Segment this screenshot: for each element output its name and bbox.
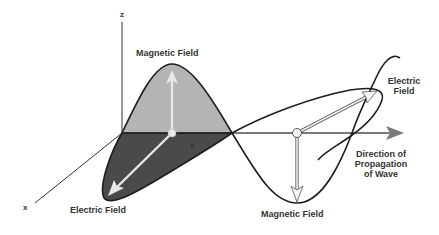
propagation-direction-label: Direction of Propagation of Wave <box>351 149 411 179</box>
magnetic-field-bottom-label: Magnetic Field <box>261 209 324 219</box>
x-axis-label: x <box>23 203 27 212</box>
magnetic-field-lobe-up <box>122 64 232 133</box>
y-axis-label: y <box>190 140 194 149</box>
propagation-line2: Propagation <box>351 159 411 169</box>
propagation-line1: Direction of <box>351 149 411 159</box>
origin-node <box>168 129 176 137</box>
electric-field-right-line2: Field <box>384 86 424 96</box>
propagation-line3: of Wave <box>351 169 411 179</box>
em-wave-diagram <box>0 0 439 235</box>
electric-field-right-line1: Electric <box>384 76 424 86</box>
z-axis-label: z <box>120 10 124 19</box>
electric-field-lobe-front <box>103 133 232 201</box>
electric-field-right-label: Electric Field <box>384 76 424 96</box>
magnetic-field-top-label: Magnetic Field <box>136 48 199 58</box>
electric-field-bottom-label: Electric Field <box>70 205 126 215</box>
magnetic-field-lobe-down <box>232 56 400 203</box>
second-node <box>293 129 302 138</box>
